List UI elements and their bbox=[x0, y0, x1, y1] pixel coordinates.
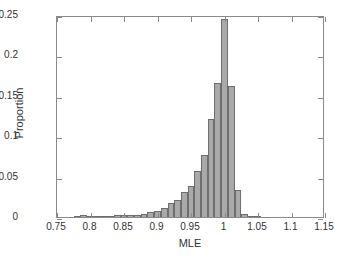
y-tick-label: 0 bbox=[0, 211, 18, 222]
y-axis-tick-labels: 00.050.10.150.20.25 bbox=[0, 0, 348, 265]
y-tick-label: 0.2 bbox=[0, 49, 18, 60]
y-tick-label: 0.25 bbox=[0, 9, 18, 20]
y-tick-label: 0.05 bbox=[0, 171, 18, 182]
histogram-figure: 0.750.80.850.90.9511.051.11.15 00.050.10… bbox=[0, 0, 348, 265]
y-axis-title: Proportion bbox=[13, 63, 25, 163]
x-axis-title: MLE bbox=[56, 237, 324, 249]
